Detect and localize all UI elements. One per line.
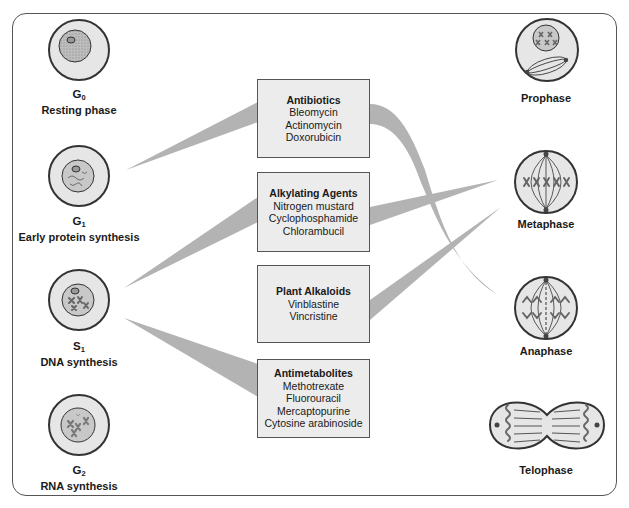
g0-description: Resting phase	[41, 104, 116, 117]
drug-class-title: Alkylating Agents	[269, 187, 357, 200]
drug-item: Cytosine arabinoside	[264, 417, 362, 430]
drug-item: Actinomycin	[285, 119, 342, 132]
drug-item: Cyclophosphamide	[269, 212, 358, 225]
drug-item: Mercaptopurine	[277, 405, 350, 418]
drug-box-plant-alkaloids: Plant Alkaloids Vinblastine Vincristine	[257, 265, 370, 343]
anaphase-label: Anaphase	[520, 345, 573, 358]
telophase-cell-icon	[490, 402, 604, 448]
drug-item: Bleomycin	[289, 106, 337, 119]
drug-item: Doxorubicin	[286, 131, 341, 144]
s1-description: DNA synthesis	[40, 356, 117, 369]
s1-label: S1 DNA synthesis	[40, 340, 117, 369]
g2-label: G2 RNA synthesis	[40, 464, 117, 493]
drug-box-antibiotics: Antibiotics Bleomycin Actinomycin Doxoru…	[257, 79, 370, 158]
drug-item: Vincristine	[289, 310, 337, 323]
g2-description: RNA synthesis	[40, 480, 117, 493]
g1-description: Early protein synthesis	[18, 231, 139, 244]
s1-cell-icon	[49, 270, 109, 330]
g2-cell-icon	[49, 395, 109, 455]
anaphase-cell-icon	[515, 277, 577, 339]
drug-box-antimetabolites: Antimetabolites Methotrexate Fluorouraci…	[257, 359, 370, 438]
metaphase-cell-icon	[515, 151, 577, 213]
drug-item: Nitrogen mustard	[273, 200, 354, 213]
drug-class-title: Antimetabolites	[274, 367, 353, 380]
drug-class-title: Plant Alkaloids	[276, 285, 351, 298]
drug-item: Chlorambucil	[283, 225, 344, 238]
g0-cell-icon	[49, 20, 109, 80]
g1-cell-icon	[49, 146, 109, 206]
g0-label: G0 Resting phase	[41, 88, 116, 117]
metaphase-label: Metaphase	[518, 218, 575, 231]
prophase-cell-icon	[516, 19, 578, 81]
drug-item: Methotrexate	[283, 380, 344, 393]
drug-box-alkylating-agents: Alkylating Agents Nitrogen mustard Cyclo…	[257, 172, 370, 252]
prophase-label: Prophase	[521, 92, 571, 105]
telophase-label: Telophase	[519, 464, 573, 477]
drug-item: Fluorouracil	[286, 392, 341, 405]
g1-label: G1 Early protein synthesis	[18, 215, 139, 244]
drug-class-title: Antibiotics	[286, 94, 340, 107]
drug-item: Vinblastine	[288, 298, 339, 311]
